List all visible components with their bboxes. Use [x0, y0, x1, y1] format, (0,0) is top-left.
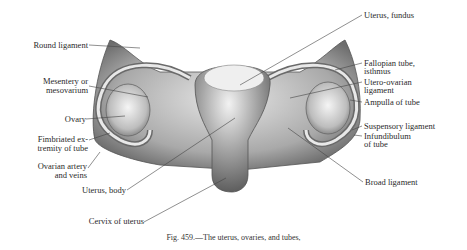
label-fallopian-line2: isthmus	[364, 67, 390, 76]
label-infundibulum-line2: of tube	[364, 140, 388, 149]
label-uterus-fundus: Uterus, fundus	[364, 11, 414, 20]
label-uterus-body: Uterus, body	[40, 186, 126, 195]
label-round-ligament: Round ligament	[8, 41, 88, 50]
label-fimbriated-line2: tremity of tube	[0, 144, 88, 153]
label-ovarian-artery-line2: and veins	[0, 171, 87, 180]
label-utero-ovarian-line2: ligament	[364, 86, 394, 95]
anatomical-figure: Round ligament Mesentery or mesovarium O…	[0, 0, 467, 250]
left-ovary	[106, 84, 150, 136]
label-ovary: Ovary	[8, 115, 86, 124]
label-cervix: Cervix of uterus	[60, 217, 144, 226]
label-broad-ligament: Broad ligament	[365, 178, 418, 187]
label-ampulla: Ampulla of tube	[364, 98, 420, 107]
label-mesentery-line2: mesovarium	[8, 86, 88, 95]
label-suspensory-ligament: Suspensory ligament	[364, 122, 435, 131]
figure-caption: Fig. 459.—The uterus, ovaries, and tubes…	[0, 233, 467, 242]
